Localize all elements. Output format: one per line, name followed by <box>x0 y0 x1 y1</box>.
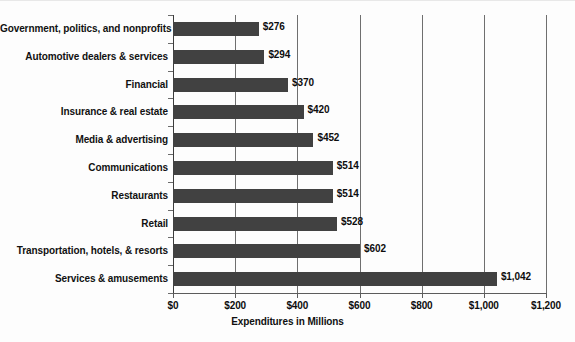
bar-row: $528 <box>173 210 546 238</box>
x-axis-tick <box>484 293 485 298</box>
bar-row: $370 <box>173 71 546 99</box>
x-axis-tick <box>173 293 174 298</box>
x-axis-tick-label: $1,000 <box>469 300 499 311</box>
bar <box>173 189 333 203</box>
bar <box>173 50 264 64</box>
bar <box>173 22 259 36</box>
bar <box>173 272 497 286</box>
x-axis-tick <box>360 293 361 298</box>
bar-value-label: $452 <box>317 131 339 144</box>
bar-row: $294 <box>173 43 546 71</box>
bar <box>173 133 313 147</box>
x-axis-tick-label: $200 <box>224 300 246 311</box>
plot-area: $276$294$370$420$452$514$514$528$602$1,0… <box>173 15 546 293</box>
y-axis-label: Services & amusements <box>0 272 168 285</box>
bar-value-label: $420 <box>308 103 330 116</box>
bar-row: $514 <box>173 154 546 182</box>
x-axis-title: Expenditures in Millions <box>0 316 575 327</box>
x-axis-tick-label: $1,200 <box>531 300 561 311</box>
y-axis-label: Restaurants <box>0 189 168 202</box>
bar-value-label: $370 <box>292 76 314 89</box>
x-axis-tick-label: $0 <box>168 300 179 311</box>
bar-value-label: $602 <box>364 242 386 255</box>
y-axis-label: Government, politics, and nonprofits <box>0 22 168 35</box>
y-axis-label: Retail <box>0 217 168 230</box>
bar-value-label: $514 <box>337 159 359 172</box>
x-axis-tick <box>546 293 547 298</box>
bar-row: $514 <box>173 182 546 210</box>
bar-value-label: $528 <box>341 215 363 228</box>
y-axis-label: Communications <box>0 161 168 174</box>
y-axis-label: Automotive dealers & services <box>0 50 168 63</box>
y-axis-label: Transportation, hotels, & resorts <box>0 244 168 257</box>
bar-value-label: $294 <box>268 48 290 61</box>
x-axis-tick-label: $400 <box>286 300 308 311</box>
bar <box>173 78 288 92</box>
bar-row: $420 <box>173 98 546 126</box>
bar <box>173 161 333 175</box>
gridline-1200 <box>546 15 547 293</box>
x-axis-tick-label: $800 <box>411 300 433 311</box>
y-axis-category-labels: Government, politics, and nonprofitsAuto… <box>0 15 168 293</box>
bar-value-label: $514 <box>337 187 359 200</box>
bar <box>173 244 360 258</box>
x-axis-tick <box>422 293 423 298</box>
bar <box>173 105 304 119</box>
y-axis-label: Media & advertising <box>0 133 168 146</box>
bar-chart: Government, politics, and nonprofitsAuto… <box>0 0 575 342</box>
bar-row: $276 <box>173 15 546 43</box>
y-axis-label: Financial <box>0 78 168 91</box>
x-axis-tick <box>235 293 236 298</box>
x-axis-tick <box>297 293 298 298</box>
bar-value-label: $1,042 <box>501 270 531 283</box>
x-axis-tick-label: $600 <box>349 300 371 311</box>
bar-row: $452 <box>173 126 546 154</box>
bar <box>173 217 337 231</box>
bar-value-label: $276 <box>263 20 285 33</box>
y-axis-label: Insurance & real estate <box>0 105 168 118</box>
bar-row: $602 <box>173 237 546 265</box>
bar-row: $1,042 <box>173 265 546 293</box>
